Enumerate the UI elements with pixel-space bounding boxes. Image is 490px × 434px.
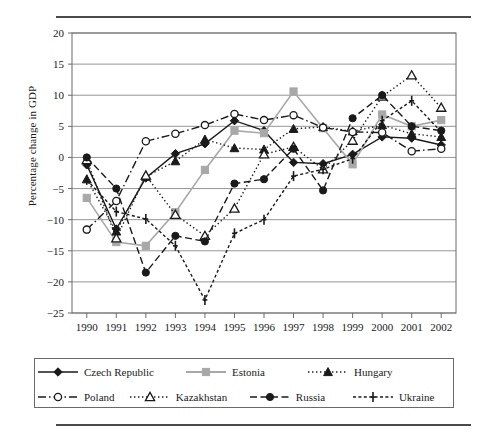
- data-point-filled-diamond: [54, 367, 62, 375]
- data-point-open-circle: [231, 110, 238, 117]
- legend-label: Hungary: [351, 366, 393, 378]
- data-point-open-circle: [438, 145, 445, 152]
- y-tick-label: −10: [47, 214, 65, 226]
- x-tick-label: 1990: [76, 321, 99, 333]
- data-point-filled-circle: [266, 393, 273, 400]
- data-point-filled-square: [438, 117, 445, 124]
- legend-item-czech-republic[interactable]: Czech Republic: [35, 363, 183, 381]
- data-point-filled-circle: [290, 145, 297, 152]
- x-tick-label: 1999: [342, 321, 365, 333]
- y-tick-label: −15: [47, 245, 65, 257]
- x-tick-label: 1991: [105, 321, 127, 333]
- data-point-plus: [262, 215, 267, 225]
- data-point-filled-circle: [201, 238, 208, 245]
- data-point-filled-square: [142, 242, 149, 249]
- legend-swatch: [35, 388, 81, 406]
- y-tick-label: −25: [47, 307, 65, 319]
- data-point-filled-triangle: [201, 135, 210, 143]
- data-point-open-triangle: [230, 204, 239, 212]
- x-tick-label: 2002: [430, 321, 452, 333]
- x-tick-label: 1997: [283, 321, 306, 333]
- legend-item-kazakhstan[interactable]: Kazakhstan: [127, 388, 247, 406]
- data-point-filled-circle: [172, 232, 179, 239]
- data-point-filled-circle: [260, 176, 267, 183]
- data-point-open-circle: [83, 226, 90, 233]
- top-rule: [56, 16, 471, 18]
- legend-label: Czech Republic: [81, 366, 154, 378]
- legend-row-top: Czech RepublicEstoniaHungary: [35, 359, 453, 384]
- data-point-filled-square: [260, 130, 267, 137]
- legend-label: Poland: [81, 391, 115, 403]
- plot-area: Percentage change in GDP Year 20151050−5…: [0, 20, 490, 320]
- line-chart: 20151050−5−10−15−20−25199019911992199319…: [0, 20, 490, 360]
- x-tick-label: 2001: [401, 321, 423, 333]
- data-point-open-circle: [260, 117, 267, 124]
- legend-label: Estonia: [229, 366, 265, 378]
- data-point-filled-triangle: [171, 157, 180, 165]
- y-tick-label: 5: [59, 120, 65, 132]
- data-point-filled-circle: [142, 269, 149, 276]
- legend-label: Ukraine: [396, 391, 434, 403]
- data-point-filled-circle: [231, 180, 238, 187]
- data-point-filled-square: [290, 88, 297, 95]
- legend-swatch: [350, 388, 396, 406]
- legend-swatch: [35, 363, 81, 381]
- x-tick-label: 2000: [371, 321, 394, 333]
- data-point-open-triangle: [348, 136, 357, 144]
- data-point-open-circle: [379, 129, 386, 136]
- x-tick-label: 1996: [253, 321, 276, 333]
- data-point-open-circle: [290, 112, 297, 119]
- data-point-filled-triangle: [407, 129, 416, 137]
- data-point-open-circle: [319, 124, 326, 131]
- legend-item-poland[interactable]: Poland: [35, 388, 127, 406]
- y-tick-label: −20: [47, 276, 65, 288]
- data-point-plus: [143, 214, 148, 224]
- data-point-open-circle: [113, 197, 120, 204]
- data-point-filled-circle: [408, 123, 415, 130]
- data-point-filled-triangle: [289, 124, 298, 132]
- legend-item-ukraine[interactable]: Ukraine: [350, 388, 453, 406]
- y-tick-label: 15: [53, 58, 65, 70]
- x-tick-label: 1993: [164, 321, 187, 333]
- data-point-open-triangle: [407, 71, 416, 79]
- legend-label: Kazakhstan: [173, 391, 227, 403]
- figure-panel: Percentage change in GDP Year 20151050−5…: [0, 0, 490, 434]
- x-tick-label: 1995: [223, 321, 246, 333]
- legend-item-russia[interactable]: Russia: [247, 388, 350, 406]
- data-point-plus: [409, 96, 414, 106]
- x-tick-label: 1998: [312, 321, 335, 333]
- legend-label: Russia: [293, 391, 325, 403]
- data-point-filled-square: [83, 194, 90, 201]
- data-point-filled-circle: [349, 115, 356, 122]
- legend-item-estonia[interactable]: Estonia: [183, 363, 305, 381]
- y-tick-label: 0: [59, 151, 65, 163]
- x-tick-label: 1994: [194, 321, 217, 333]
- data-point-open-circle: [201, 121, 208, 128]
- y-tick-label: 20: [53, 27, 65, 39]
- data-point-filled-circle: [379, 92, 386, 99]
- data-point-plus: [173, 241, 178, 251]
- series-estonia: [83, 88, 445, 250]
- data-point-filled-square: [201, 166, 208, 173]
- x-tick-label: 1992: [135, 321, 157, 333]
- data-point-open-triangle: [437, 103, 446, 111]
- legend-swatch: [247, 388, 293, 406]
- legend-item-hungary[interactable]: Hungary: [305, 363, 435, 381]
- chart-legend: Czech RepublicEstoniaHungary PolandKazak…: [34, 358, 454, 408]
- data-point-filled-square: [202, 368, 209, 375]
- y-tick-label: 10: [53, 89, 65, 101]
- data-point-filled-circle: [83, 154, 90, 161]
- data-point-filled-circle: [319, 187, 326, 194]
- data-point-filled-circle: [113, 185, 120, 192]
- data-point-open-circle: [408, 148, 415, 155]
- legend-row-bottom: PolandKazakhstanRussiaUkraine: [35, 384, 453, 409]
- legend-swatch: [183, 363, 229, 381]
- legend-swatch: [127, 388, 173, 406]
- data-point-open-circle: [54, 393, 61, 400]
- y-tick-label: −5: [52, 183, 64, 195]
- data-point-open-circle: [142, 138, 149, 145]
- bottom-rule: [56, 424, 471, 426]
- legend-swatch: [305, 363, 351, 381]
- data-point-open-circle: [172, 130, 179, 137]
- data-point-filled-square: [231, 127, 238, 134]
